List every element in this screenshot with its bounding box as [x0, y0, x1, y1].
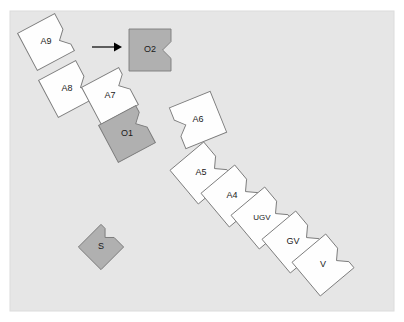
- puzzle-diagram: A9A8A7O2O1SA6A5A4UGVGVV: [0, 0, 404, 322]
- diagram-canvas: A9A8A7O2O1SA6A5A4UGVGVV: [0, 0, 404, 322]
